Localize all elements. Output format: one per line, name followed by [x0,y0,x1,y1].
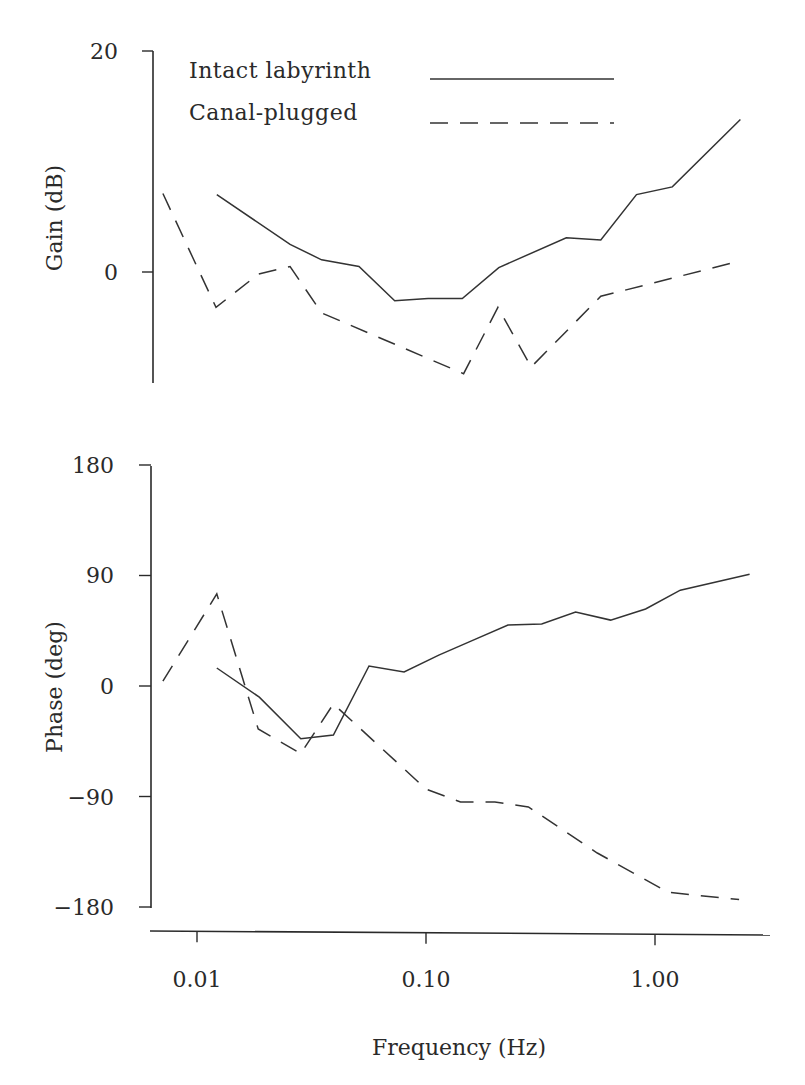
gain-y-ticks: 200 [90,39,153,285]
phase-panel: 180900−90−180 Phase (deg) [42,453,750,920]
x-axis-line [150,931,770,935]
legend-canal-label: Canal-plugged [189,100,358,125]
gain-canal-series [163,194,741,374]
x-tick-label: 0.01 [173,967,222,992]
bode-plot-figure: 200 Gain (dB) Intact labyrinth Canal-plu… [0,0,805,1085]
x-ticks: 0.010.101.00 [173,931,680,992]
gain-tick-label: 0 [104,260,118,285]
gain-axis-label: Gain (dB) [42,165,67,271]
x-tick-label: 1.00 [631,967,680,992]
phase-tick-label: 180 [72,453,114,478]
phase-axis-label: Phase (deg) [42,621,67,753]
phase-tick-label: 90 [86,563,114,588]
phase-tick-label: −90 [68,785,114,810]
gain-panel: 200 Gain (dB) Intact labyrinth Canal-plu… [42,39,740,383]
legend-intact-label: Intact labyrinth [189,58,371,83]
phase-canal-series [163,594,739,900]
phase-intact-series [217,574,750,739]
gain-tick-label: 20 [90,39,118,64]
x-axis-label: Frequency (Hz) [372,1035,546,1060]
x-axis: 0.010.101.00 Frequency (Hz) [150,931,770,1060]
legend: Intact labyrinth Canal-plugged [189,58,614,125]
phase-tick-label: 0 [100,674,114,699]
x-tick-label: 0.10 [402,967,451,992]
phase-y-ticks: 180900−90−180 [54,453,151,920]
phase-tick-label: −180 [54,895,114,920]
